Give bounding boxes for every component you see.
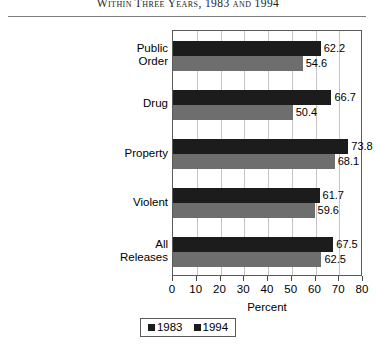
category-label: PublicOrder	[18, 42, 168, 68]
bar-value-label: 59.6	[318, 203, 339, 218]
x-axis-tick	[291, 276, 292, 281]
bar-value-label: 62.5	[324, 252, 345, 267]
chart-title: Within Three Years, 1983 and 1994	[0, 0, 376, 9]
x-axis-tick	[338, 276, 339, 281]
legend-box: 19831994	[140, 318, 236, 337]
bar-1994-all-releases	[173, 252, 321, 267]
x-axis-title: Percent	[172, 301, 362, 313]
category-label-line: Public	[18, 42, 168, 55]
bar-value-label: 61.7	[323, 188, 344, 203]
x-axis-tick	[362, 276, 363, 281]
category-label: AllReleases	[18, 238, 168, 264]
bar-value-label: 73.8	[351, 139, 372, 154]
category-axis-labels: PublicOrderDrugPropertyViolentAllRelease…	[12, 30, 168, 276]
legend-swatch	[194, 324, 201, 331]
legend-label: 1983	[157, 321, 183, 334]
category-label: Property	[18, 147, 168, 160]
bar-value-label: 67.5	[336, 237, 357, 252]
legend-swatch	[148, 324, 155, 331]
bar-1994-property	[173, 154, 335, 169]
x-axis-tick	[196, 276, 197, 281]
bar-1983-violent	[173, 188, 320, 203]
category-label: Drug	[18, 97, 168, 110]
category-label: Violent	[18, 196, 168, 209]
category-label-line: Drug	[18, 97, 168, 110]
bar-value-label: 50.4	[296, 105, 317, 120]
category-label-line: Releases	[18, 251, 168, 264]
legend-item-1994: 1994	[194, 321, 229, 334]
category-label-line: Violent	[18, 196, 168, 209]
bar-value-label: 54.6	[306, 56, 327, 71]
category-label-line: Order	[18, 55, 168, 68]
title-divider	[8, 16, 366, 17]
bar-1983-drug	[173, 90, 331, 105]
x-axis-tick	[172, 276, 173, 281]
bar-1994-violent	[173, 203, 315, 218]
bar-1983-public-order	[173, 41, 321, 56]
bar-value-label: 68.1	[338, 154, 359, 169]
x-axis-tick	[315, 276, 316, 281]
bar-1983-property	[173, 139, 348, 154]
bar-value-label: 62.2	[324, 41, 345, 56]
legend-label: 1994	[203, 321, 229, 334]
x-axis-tick	[220, 276, 221, 281]
bar-1983-all-releases	[173, 237, 333, 252]
chart-plot-area: 62.254.666.750.473.868.161.759.667.562.5	[172, 30, 362, 276]
legend-item-1983: 1983	[148, 321, 183, 334]
x-axis-tick	[267, 276, 268, 281]
x-axis-tick-label: 80	[347, 283, 376, 295]
bar-value-label: 66.7	[334, 90, 355, 105]
category-label-line: All	[18, 238, 168, 251]
category-label-line: Property	[18, 147, 168, 160]
bar-1994-drug	[173, 105, 293, 120]
chart-legend: 19831994	[0, 318, 376, 337]
x-axis-tick	[243, 276, 244, 281]
bar-1994-public-order	[173, 56, 303, 71]
